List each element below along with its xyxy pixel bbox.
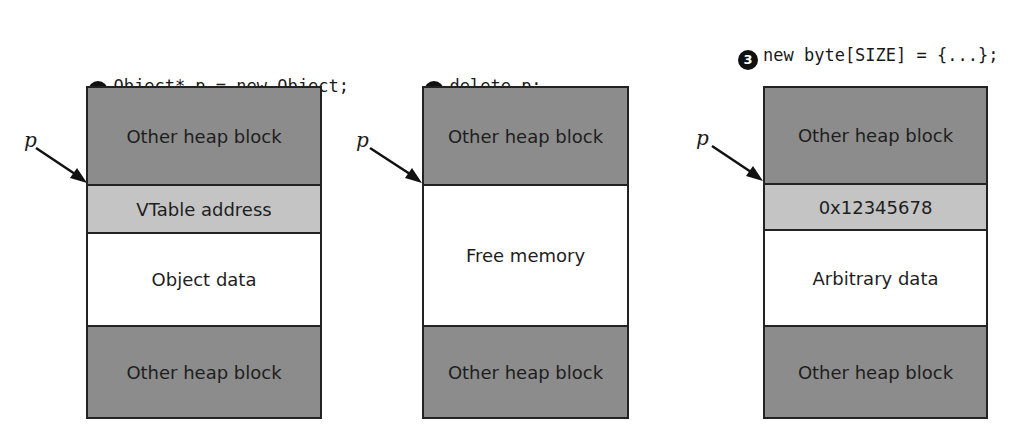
heap-block-vtable: VTable address <box>88 184 320 232</box>
heap-block-free-memory: Free memory <box>424 184 627 325</box>
heap-block-other-top: Other heap block <box>765 88 986 183</box>
heap-diagram-1: Other heap block VTable address Object d… <box>86 86 322 419</box>
heap-diagram-3: Other heap block 0x12345678 Arbitrary da… <box>763 86 988 419</box>
heap-block-overwritten-vtable: 0x12345678 <box>765 183 986 229</box>
pointer-label-2: p <box>356 128 369 152</box>
heap-block-other-top: Other heap block <box>88 88 320 184</box>
pointer-label-3: p <box>696 126 709 150</box>
heap-block-other-bottom: Other heap block <box>424 325 627 417</box>
heap-diagram-2: Other heap block Free memory Other heap … <box>422 86 629 419</box>
heap-block-other-bottom: Other heap block <box>88 325 320 417</box>
heap-block-other-top: Other heap block <box>424 88 627 184</box>
heap-block-object-data: Object data <box>88 232 320 325</box>
heap-block-arbitrary-data: Arbitrary data <box>765 229 986 325</box>
pointer-label-1: p <box>24 128 37 152</box>
pointer-arrow-icon <box>0 0 1 1</box>
step-3-code-line-1: new byte[SIZE] = {...}; <box>763 45 998 65</box>
heap-block-other-bottom: Other heap block <box>765 325 986 417</box>
step-3-badge: 3 <box>738 50 758 70</box>
